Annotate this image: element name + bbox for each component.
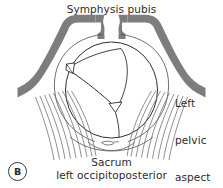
fetal-skull-outline — [66, 42, 158, 138]
label-left-pelvic-line1: Left — [175, 97, 221, 109]
label-sacrum: Sacrum — [0, 156, 223, 168]
label-left-pelvic-line2: pelvic — [175, 134, 221, 146]
symphysis-pubis-gap — [103, 15, 120, 34]
label-left-occipitoposterior: left occipitoposterior — [0, 169, 223, 181]
sacrum-outline — [70, 137, 153, 151]
panel-letter-badge: B — [8, 162, 27, 181]
anterior-fontanelle — [66, 63, 75, 74]
figure-panel: Symphysis pubis Left pelvic aspect Sacru… — [0, 0, 223, 188]
label-symphysis-pubis: Symphysis pubis — [0, 3, 223, 15]
